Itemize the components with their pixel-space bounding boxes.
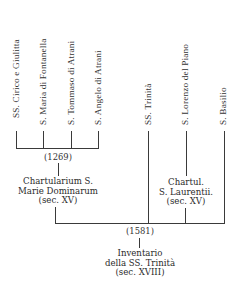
source-label-cirico: SS. Cirico e Giulitta — [11, 39, 21, 118]
node-inventario-trinita: Inventario della SS. Trinità (sec. XVIII… — [80, 249, 200, 278]
source-label-tommaso-atrani: S. Tommaso di Atrani — [66, 41, 76, 125]
date-left-group: (1269) — [38, 152, 78, 162]
connector-laurentii-to-final — [185, 208, 186, 223]
line-lorenzo-piano — [186, 131, 187, 176]
source-label-maria-fontanella: S. Maria di Fontanella — [38, 38, 48, 125]
source-label-lorenzo-piano: S. Lorenzo del Piano — [180, 44, 190, 125]
line-trinita — [148, 131, 149, 223]
node-title-line3: (sec. XV) — [150, 197, 222, 207]
node-title-line3: (sec. XV) — [2, 196, 114, 206]
connector-left-group — [58, 163, 59, 176]
date-final: (1581) — [118, 226, 162, 236]
tick-cirico — [16, 131, 17, 148]
connector-final — [139, 238, 140, 248]
bracket-left-group — [16, 148, 99, 149]
node-chartul-laurentii: Chartul. S. Laurentii. (sec. XV) — [150, 178, 222, 207]
tick-tommaso-atrani — [71, 131, 72, 148]
source-label-trinita: SS. Trinità — [143, 83, 153, 125]
node-title-line3: (sec. XVIII) — [80, 268, 200, 278]
connector-left-to-final — [55, 207, 56, 223]
tick-maria-fontanella — [43, 131, 44, 148]
line-basilio — [224, 131, 225, 223]
source-label-basilio: S. Basilio — [218, 87, 228, 125]
bracket-final — [55, 223, 225, 224]
node-chartularium-marie-dominarum: Chartularium S. Marie Dominarum (sec. XV… — [2, 177, 114, 206]
tick-angelo-atrani — [98, 131, 99, 148]
source-label-angelo-atrani: S. Angelo di Atrani — [93, 50, 103, 125]
